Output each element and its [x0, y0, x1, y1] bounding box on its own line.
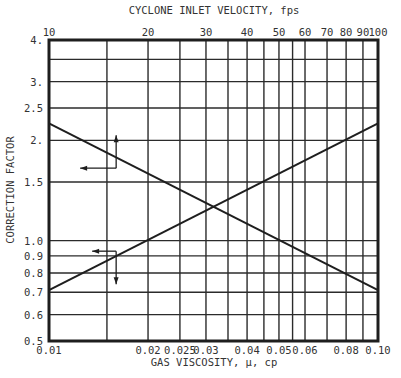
- left-tick-label: 4.: [30, 34, 43, 46]
- left-tick-label: 0.8: [24, 267, 43, 279]
- bottom-tick-label: 0.06: [292, 344, 317, 356]
- top-tick-label: 80: [340, 26, 353, 38]
- reading-arrows: [80, 135, 119, 284]
- top-tick-label: 100: [369, 26, 388, 38]
- left-tick-label: 0.5: [24, 335, 43, 347]
- left-tick-label: 0.9: [24, 250, 43, 262]
- left-tick-label: 2.: [30, 134, 43, 146]
- arrowhead-left-icon: [80, 166, 87, 171]
- top-axis-title: CYCLONE INLET VELOCITY, fps: [129, 4, 300, 16]
- bottom-tick-label: 0.08: [333, 344, 358, 356]
- left-axis-tick-labels: 4.3.2.52.1.51.00.90.80.70.60.5: [24, 34, 43, 347]
- chart: 102030405060708090100 0.010.020.0250.030…: [0, 0, 401, 378]
- bottom-axis-title: GAS VISCOSITY, μ, cp: [151, 356, 277, 368]
- arrowhead-down-icon: [114, 277, 119, 284]
- top-tick-label: 60: [299, 26, 312, 38]
- left-tick-label: 1.5: [24, 176, 43, 188]
- top-tick-label: 90: [357, 26, 370, 38]
- top-tick-label: 10: [43, 26, 56, 38]
- bottom-tick-label: 0.025: [164, 344, 196, 356]
- plot-frame: [49, 40, 378, 341]
- y-axis-title: CORRECTION FACTOR: [4, 136, 16, 244]
- top-tick-label: 50: [273, 26, 286, 38]
- top-tick-label: 70: [321, 26, 334, 38]
- left-tick-label: 1.0: [24, 235, 43, 247]
- bottom-tick-label: 0.04: [234, 344, 259, 356]
- left-tick-label: 3.: [30, 76, 43, 88]
- left-tick-label: 2.5: [24, 102, 43, 114]
- left-tick-label: 0.6: [24, 309, 43, 321]
- top-tick-label: 20: [142, 26, 155, 38]
- bottom-tick-label: 0.10: [365, 344, 390, 356]
- horizontal-gridlines: [49, 40, 378, 341]
- bottom-axis-tick-labels: 0.010.020.0250.030.040.050.060.080.10: [36, 344, 390, 356]
- top-tick-label: 30: [200, 26, 213, 38]
- left-tick-label: 0.7: [24, 286, 43, 298]
- top-axis-tick-labels: 102030405060708090100: [43, 26, 388, 38]
- arrowhead-up-icon: [114, 135, 119, 142]
- bottom-tick-label: 0.05: [266, 344, 291, 356]
- top-tick-label: 40: [241, 26, 254, 38]
- data-lines: [49, 123, 378, 290]
- bottom-tick-label: 0.02: [135, 344, 160, 356]
- bottom-tick-label: 0.03: [193, 344, 218, 356]
- arrowhead-left-icon: [92, 249, 99, 254]
- vertical-gridlines: [49, 40, 378, 341]
